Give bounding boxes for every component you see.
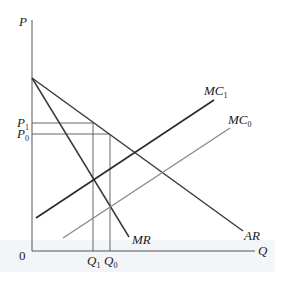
- q1-label: Q1: [87, 253, 100, 270]
- origin-label: 0: [19, 248, 26, 263]
- y-axis-label: P: [18, 14, 27, 29]
- ar-label: AR: [243, 228, 260, 243]
- mr-label: MR: [131, 232, 151, 247]
- x-axis-label: Q: [258, 243, 268, 258]
- monopoly-diagram: P Q 0 P1 P0 Q1 Q0 MC1 MC0 MR AR: [0, 0, 285, 285]
- mc1-label: MC1: [203, 83, 228, 100]
- mc1-curve: [36, 100, 214, 218]
- q0-label: Q0: [104, 253, 117, 270]
- mc0-label: MC0: [227, 112, 252, 129]
- mr-curve: [32, 78, 129, 237]
